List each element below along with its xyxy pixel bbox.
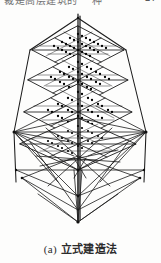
figure-illustration [0, 10, 161, 238]
clipped-header-text: 裁是高层建筑的 一种 [4, 0, 102, 7]
clipped-page-header: 裁是高层建筑的 一种 17 [0, 0, 161, 9]
figure-caption: (a) 立式建造法 [0, 240, 161, 256]
figure-caption-text: 立式建造法 [61, 243, 118, 256]
clipped-header-page-number: 17 [144, 0, 157, 3]
truss-tower-diagram [0, 10, 161, 238]
figure-caption-label: (a) [44, 243, 57, 255]
